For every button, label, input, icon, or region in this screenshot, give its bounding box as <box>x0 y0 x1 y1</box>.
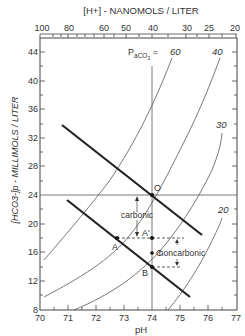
plot-frame <box>40 38 237 310</box>
top-axis-title: [H+] - NANOMOLS / LITER <box>83 5 198 16</box>
x-axis-title: pH <box>135 324 147 335</box>
svg-text:60: 60 <box>99 23 109 33</box>
y-axis-title: [HCO3-]p - MILLIMOLS / LITER <box>10 96 20 225</box>
svg-text:76: 76 <box>203 313 213 323</box>
svg-text:80: 80 <box>64 23 74 33</box>
svg-text:36: 36 <box>28 104 38 114</box>
svg-text:40: 40 <box>212 46 223 57</box>
svg-text:20: 20 <box>217 204 229 215</box>
isobar-30 <box>74 133 222 310</box>
y-tick-labels: 8 12 16 20 24 28 32 36 40 44 <box>28 47 38 315</box>
isobar-60 <box>44 58 172 260</box>
svg-text:44: 44 <box>28 47 38 57</box>
carbonic-label: carbonic <box>121 210 154 220</box>
svg-text:72: 72 <box>91 313 101 323</box>
svg-text:74: 74 <box>147 313 157 323</box>
svg-text:B: B <box>142 268 148 278</box>
svg-text:A: A <box>112 242 118 252</box>
svg-text:100: 100 <box>34 23 49 33</box>
svg-text:40: 40 <box>28 76 38 86</box>
svg-text:60: 60 <box>170 46 181 57</box>
svg-text:20: 20 <box>28 219 38 229</box>
svg-text:16: 16 <box>28 247 38 257</box>
svg-text:30: 30 <box>182 23 192 33</box>
svg-text:70: 70 <box>35 313 45 323</box>
svg-text:77: 77 <box>231 313 241 323</box>
svg-text:73: 73 <box>119 313 129 323</box>
svg-text:50: 50 <box>121 23 131 33</box>
svg-text:40: 40 <box>148 23 158 33</box>
top-scale <box>40 34 237 38</box>
svg-text:C: C <box>156 248 163 258</box>
top-tick-labels: 100 80 60 50 40 30 25 20 <box>34 23 240 33</box>
svg-text:12: 12 <box>28 276 38 286</box>
svg-text:O: O <box>154 183 161 193</box>
isobar-40 <box>44 58 220 297</box>
x-tick-labels: 70 71 72 73 74 75 76 77 <box>35 313 241 323</box>
svg-text:25: 25 <box>204 23 214 33</box>
svg-text:71: 71 <box>63 313 73 323</box>
svg-text:A': A' <box>142 228 150 238</box>
svg-text:32: 32 <box>28 133 38 143</box>
svg-text:PaCO2 =: PaCO2 = <box>128 47 158 61</box>
svg-text:30: 30 <box>216 119 227 130</box>
svg-text:24: 24 <box>28 190 38 200</box>
y-ticks <box>40 52 237 295</box>
pco2-isobars <box>44 58 222 310</box>
svg-text:20: 20 <box>230 23 240 33</box>
svg-text:28: 28 <box>28 161 38 171</box>
svg-text:75: 75 <box>175 313 185 323</box>
acid-base-chart: [H+] - NANOMOLS / LITER 100 80 60 50 40 … <box>0 0 245 336</box>
noncarbonic-label: noncarbonic <box>159 248 206 258</box>
